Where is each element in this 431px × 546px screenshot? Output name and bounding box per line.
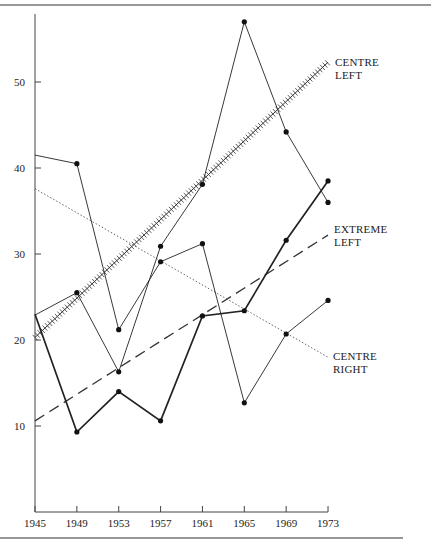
label-centre-right: CENTRE RIGHT	[333, 350, 377, 375]
data-point	[158, 244, 163, 249]
data-point	[74, 429, 79, 434]
x-tick-label: 1957	[150, 517, 173, 529]
x-tick-label: 1973	[317, 517, 340, 529]
x-tick-label: 1961	[191, 517, 213, 529]
data-point	[200, 313, 205, 318]
data-point	[242, 400, 247, 405]
label-centre-right-line2: RIGHT	[333, 363, 368, 375]
x-tick-label: 1953	[108, 517, 131, 529]
trend-centre-left	[33, 60, 330, 340]
data-point	[74, 161, 79, 166]
trend-centre-right	[35, 189, 328, 358]
label-centre-left-line2: LEFT	[335, 69, 362, 81]
y-tick-label: 20	[14, 334, 26, 346]
label-extreme-left: EXTREME LEFT	[334, 223, 387, 248]
y-tick-label: 10	[14, 420, 26, 432]
data-point	[284, 238, 289, 243]
data-point	[284, 331, 289, 336]
data-point	[325, 178, 330, 183]
data-point	[284, 129, 289, 134]
label-centre-left: CENTRE LEFT	[335, 56, 379, 81]
x-tick-label: 1965	[233, 517, 256, 529]
line-chart: 1020304050 19451949195319571961196519691…	[0, 0, 431, 546]
x-tick-label: 1969	[275, 517, 298, 529]
data-point	[200, 241, 205, 246]
y-tick-label: 40	[14, 162, 26, 174]
data-point	[116, 369, 121, 374]
label-centre-left-line1: CENTRE	[335, 56, 379, 68]
data-series	[35, 19, 331, 434]
data-point	[325, 200, 330, 205]
trend-extreme-left	[35, 235, 328, 421]
data-point	[116, 389, 121, 394]
data-point	[158, 418, 163, 423]
label-extreme-left-line2: LEFT	[334, 236, 361, 248]
x-tick-label: 1949	[66, 517, 89, 529]
label-extreme-left-line1: EXTREME	[334, 223, 387, 235]
data-point	[325, 298, 330, 303]
data-point	[74, 290, 79, 295]
series-centre-right	[35, 155, 331, 405]
y-tick-label: 50	[14, 76, 26, 88]
data-point	[200, 182, 205, 187]
x-axis-ticks: 19451949195319571961196519691973	[24, 506, 340, 529]
label-centre-right-line1: CENTRE	[333, 350, 377, 362]
x-tick-label: 1945	[24, 517, 47, 529]
series-extreme-left	[35, 178, 331, 434]
y-tick-label: 30	[14, 248, 26, 260]
data-point	[242, 308, 247, 313]
y-axis-ticks: 1020304050	[14, 76, 41, 432]
data-point	[116, 327, 121, 332]
data-point	[158, 259, 163, 264]
data-point	[242, 19, 247, 24]
